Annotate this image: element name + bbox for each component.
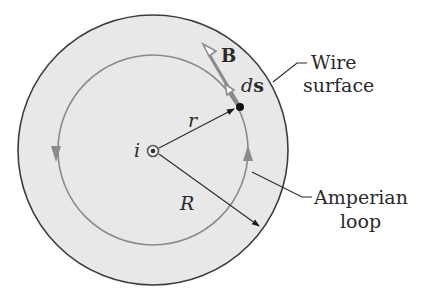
length-element-label: ds	[241, 74, 264, 96]
length-element-s: s	[253, 74, 264, 96]
wire-surface-label-line1: Wire	[311, 51, 357, 73]
length-element-d: d	[241, 74, 253, 96]
length-element-point	[236, 103, 244, 111]
amperian-loop-label-line1: Amperian	[313, 186, 408, 208]
amperian-loop-diagram: i r R B ds Wire surface Amperian loop	[0, 0, 423, 295]
amperian-loop-label-line2: loop	[340, 210, 381, 232]
wire-surface-leader-line	[273, 63, 307, 82]
field-vector-label: B	[221, 45, 236, 66]
current-dot-icon	[151, 149, 156, 154]
current-label: i	[134, 139, 140, 161]
wire-surface-label-line2: surface	[303, 74, 374, 96]
radius-R-label: R	[179, 192, 194, 214]
